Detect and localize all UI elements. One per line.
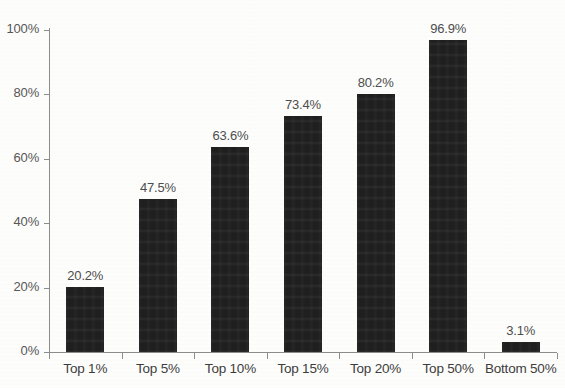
x-axis-category-label: Top 50% [412, 361, 485, 376]
x-axis-end-tick-mark [49, 353, 50, 359]
bar-value-label: 63.6% [189, 128, 271, 143]
y-axis-tick-label: 60% [14, 150, 39, 165]
x-axis-category-label: Top 15% [267, 361, 340, 376]
y-axis-tick-label: 20% [14, 279, 39, 294]
bar-value-label: 96.9% [407, 21, 489, 36]
bar-chart-figure: 0%20%40%60%80%100% Top 1%Top 5%Top 10%To… [0, 0, 565, 388]
bar[interactable] [139, 199, 177, 352]
plot-area: 20.2%47.5%63.6%73.4%80.2%96.9%3.1% [49, 30, 557, 352]
bar-group[interactable]: 63.6% [211, 30, 249, 352]
y-axis-tick-label: 40% [14, 214, 39, 229]
bar-group[interactable]: 96.9% [429, 30, 467, 352]
bar[interactable] [66, 287, 104, 352]
bar-group[interactable]: 20.2% [66, 30, 104, 352]
x-axis-category-label: Top 20% [339, 361, 412, 376]
bar-value-label: 73.4% [262, 97, 344, 112]
y-axis-tick-label: 0% [21, 343, 39, 358]
bar-group[interactable]: 80.2% [357, 30, 395, 352]
bar-value-label: 47.5% [117, 180, 199, 195]
bar[interactable] [502, 342, 540, 352]
bar[interactable] [429, 40, 467, 352]
x-axis-tick-mark [194, 353, 195, 359]
x-axis-tick-mark [484, 353, 485, 359]
bar-group[interactable]: 47.5% [139, 30, 177, 352]
x-axis-category-label: Top 5% [122, 361, 195, 376]
x-axis-line [49, 352, 557, 353]
bar[interactable] [211, 147, 249, 352]
x-axis-tick-mark [267, 353, 268, 359]
x-axis-end-tick-mark [557, 353, 558, 359]
bar-value-label: 3.1% [480, 323, 562, 338]
bar[interactable] [357, 94, 395, 352]
x-axis-category-label: Top 1% [49, 361, 122, 376]
x-axis-category-label: Bottom 50% [484, 361, 557, 376]
bar-group[interactable]: 73.4% [284, 30, 322, 352]
y-axis-tick-label: 80% [14, 85, 39, 100]
bar[interactable] [284, 116, 322, 352]
x-axis-tick-mark [122, 353, 123, 359]
bar-value-label: 80.2% [335, 75, 417, 90]
x-axis-tick-mark [339, 353, 340, 359]
y-axis-tick-label: 100% [7, 21, 39, 36]
bar-value-label: 20.2% [44, 268, 126, 283]
x-axis-tick-mark [412, 353, 413, 359]
bar-group[interactable]: 3.1% [502, 30, 540, 352]
x-axis-category-label: Top 10% [194, 361, 267, 376]
